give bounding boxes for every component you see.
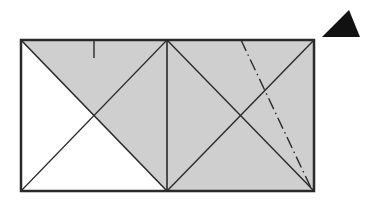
triangle-marker-icon bbox=[322, 10, 360, 37]
folding-diagram bbox=[0, 0, 383, 207]
